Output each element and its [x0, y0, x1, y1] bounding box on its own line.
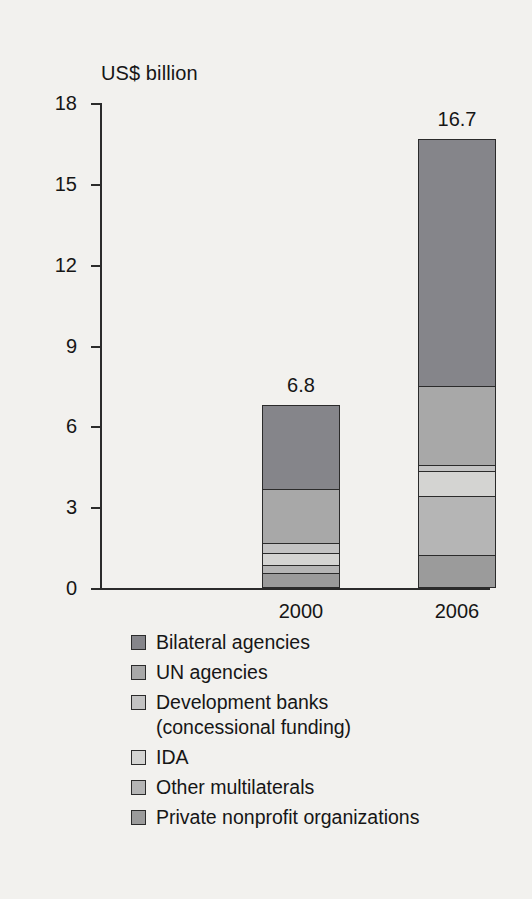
- legend-swatch-icon: [131, 695, 146, 710]
- y-tick: 18: [91, 103, 102, 105]
- legend-swatch-icon: [131, 635, 146, 650]
- x-category-label: 2006: [435, 600, 480, 623]
- bar-2000[interactable]: [262, 405, 340, 588]
- legend-item[interactable]: IDA: [131, 745, 531, 770]
- y-tick: 3: [91, 507, 102, 509]
- legend-label: Bilateral agencies: [156, 630, 310, 655]
- bar-segment[interactable]: [263, 554, 339, 566]
- bar-total-label: 16.7: [438, 108, 477, 131]
- legend-label: Development banks (concessional funding): [156, 690, 351, 740]
- y-tick-label: 12: [55, 253, 77, 276]
- legend-label: Other multilaterals: [156, 775, 314, 800]
- y-tick: 9: [91, 346, 102, 348]
- legend-swatch-icon: [131, 780, 146, 795]
- y-tick: 0: [91, 588, 102, 590]
- legend-label: Private nonprofit organizations: [156, 805, 419, 830]
- y-tick-label: 6: [66, 415, 77, 438]
- x-category-label: 2000: [279, 600, 324, 623]
- legend-item[interactable]: Development banks (concessional funding): [131, 690, 531, 740]
- bar-segment[interactable]: [419, 387, 495, 466]
- bar-segment[interactable]: [263, 406, 339, 490]
- legend-swatch-icon: [131, 810, 146, 825]
- legend-label: UN agencies: [156, 660, 268, 685]
- bar-total-label: 6.8: [287, 374, 315, 397]
- x-axis-line: [100, 588, 490, 590]
- y-tick-label: 9: [66, 334, 77, 357]
- y-axis-title: US$ billion: [101, 62, 198, 85]
- bar-segment[interactable]: [263, 566, 339, 574]
- y-tick-label: 15: [55, 172, 77, 195]
- legend-item[interactable]: UN agencies: [131, 660, 531, 685]
- chart-figure: US$ billion 1815129630 6.816.7 20002006 …: [0, 0, 532, 899]
- y-tick: 12: [91, 265, 102, 267]
- legend-swatch-icon: [131, 750, 146, 765]
- legend-item[interactable]: Private nonprofit organizations: [131, 805, 531, 830]
- legend-item[interactable]: Other multilaterals: [131, 775, 531, 800]
- legend-swatch-icon: [131, 665, 146, 680]
- y-tick: 6: [91, 426, 102, 428]
- bar-segment[interactable]: [263, 574, 339, 587]
- bar-segment[interactable]: [263, 490, 339, 545]
- y-tick: 15: [91, 184, 102, 186]
- chart-legend: Bilateral agenciesUN agenciesDevelopment…: [131, 630, 531, 835]
- bar-segment[interactable]: [263, 544, 339, 553]
- y-tick-label: 18: [55, 92, 77, 115]
- bar-segment[interactable]: [419, 497, 495, 556]
- legend-item[interactable]: Bilateral agencies: [131, 630, 531, 655]
- plot-area: 1815129630 6.816.7 20002006: [100, 103, 490, 590]
- legend-label: IDA: [156, 745, 189, 770]
- y-tick-label: 3: [66, 496, 77, 519]
- bar-segment[interactable]: [419, 140, 495, 387]
- bar-2006[interactable]: [418, 139, 496, 588]
- bar-segment[interactable]: [419, 556, 495, 587]
- y-tick-label: 0: [66, 577, 77, 600]
- bar-segment[interactable]: [419, 472, 495, 497]
